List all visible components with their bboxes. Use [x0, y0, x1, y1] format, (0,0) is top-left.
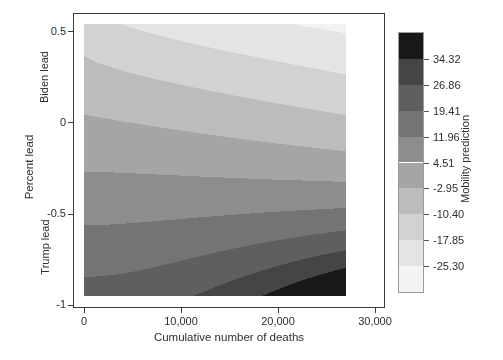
colorbar-segment [399, 33, 423, 59]
colorbar-tick [424, 85, 429, 86]
x-tick-20000 [278, 308, 279, 313]
y-tick-0.5 [68, 31, 73, 32]
colorbar-tick [424, 188, 429, 189]
colorbar-tick-label: -2.95 [433, 182, 458, 194]
x-tick-label: 0 [81, 315, 87, 327]
colorbar-segment [399, 111, 423, 137]
colorbar-segment [399, 137, 423, 163]
y-annotation-biden-lead: Biden lead [38, 47, 50, 107]
colorbar-tick [424, 240, 429, 241]
colorbar-segment [399, 188, 423, 214]
colorbar-tick-label: 26.86 [433, 79, 461, 91]
contour-figure: 0 10,000 20,000 30,000 Cumulative number… [0, 0, 503, 360]
y-axis-title: Percent lead [23, 132, 35, 202]
colorbar-segment [399, 59, 423, 85]
x-tick-label: 30,000 [358, 315, 392, 327]
colorbar-area: 34.3226.8619.4111.964.51-2.95-10.40-17.8… [398, 32, 498, 298]
y-annotation-trump-lead: Trump lead [39, 216, 51, 278]
colorbar-segment [399, 163, 423, 189]
colorbar [398, 32, 424, 293]
plot-frame [73, 13, 385, 308]
x-tick-0 [84, 308, 85, 313]
x-tick-10000 [181, 308, 182, 313]
x-tick-label: 20,000 [261, 315, 295, 327]
colorbar-segment [399, 266, 423, 292]
colorbar-tick [424, 266, 429, 267]
y-tick-0 [68, 122, 73, 123]
colorbar-tick-label: 4.51 [433, 157, 454, 169]
colorbar-tick-label: -17.85 [433, 234, 464, 246]
y-tick-neg0.5 [68, 214, 73, 215]
y-tick-label: 0.5 [32, 25, 66, 37]
x-tick-30000 [375, 308, 376, 313]
colorbar-segment [399, 214, 423, 240]
colorbar-tick [424, 214, 429, 215]
colorbar-tick-label: -25.30 [433, 260, 464, 272]
colorbar-tick-label: 19.41 [433, 105, 461, 117]
y-tick-neg1 [68, 305, 73, 306]
colorbar-tick-label: 34.32 [433, 53, 461, 65]
colorbar-segment [399, 240, 423, 266]
x-tick-label: 10,000 [164, 315, 198, 327]
colorbar-tick [424, 59, 429, 60]
colorbar-title: Mobility prediction [459, 99, 471, 219]
colorbar-tick [424, 111, 429, 112]
colorbar-segment [399, 85, 423, 111]
y-tick-label: 0 [32, 116, 66, 128]
y-tick-label: -1 [32, 298, 66, 310]
colorbar-tick [424, 137, 429, 138]
x-axis-title: Cumulative number of deaths [129, 331, 329, 343]
colorbar-tick-label: 11.96 [433, 131, 460, 143]
colorbar-tick [424, 163, 429, 164]
